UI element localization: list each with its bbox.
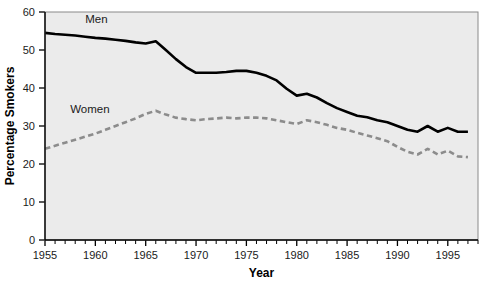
plot-panel [45, 12, 478, 240]
y-tick-label: 60 [23, 6, 35, 18]
y-tick-label: 50 [23, 44, 35, 56]
x-axis-tick-labels: 195519601965197019751980198519901995 [33, 249, 460, 261]
x-axis-title: Year [249, 266, 275, 280]
y-tick-label: 40 [23, 82, 35, 94]
x-tick-label: 1985 [335, 249, 359, 261]
x-tick-label: 1960 [83, 249, 107, 261]
y-tick-label: 20 [23, 158, 35, 170]
x-tick-label: 1990 [385, 249, 409, 261]
y-tick-label: 0 [29, 234, 35, 246]
x-tick-label: 1975 [234, 249, 258, 261]
x-tick-label: 1995 [436, 249, 460, 261]
x-tick-label: 1970 [184, 249, 208, 261]
x-tick-label: 1965 [133, 249, 157, 261]
y-tick-label: 10 [23, 196, 35, 208]
plot-area-background [45, 12, 478, 240]
x-tick-label: 1955 [33, 249, 57, 261]
series-label-men: Men [85, 13, 107, 25]
y-tick-label: 30 [23, 120, 35, 132]
series-label-women: Women [70, 103, 109, 115]
chart-canvas: 195519601965197019751980198519901995 010… [0, 0, 489, 291]
y-axis-title: Percentage Smokers [3, 66, 17, 185]
x-tick-label: 1980 [285, 249, 309, 261]
smoking-prevalence-chart: 195519601965197019751980198519901995 010… [0, 0, 489, 291]
